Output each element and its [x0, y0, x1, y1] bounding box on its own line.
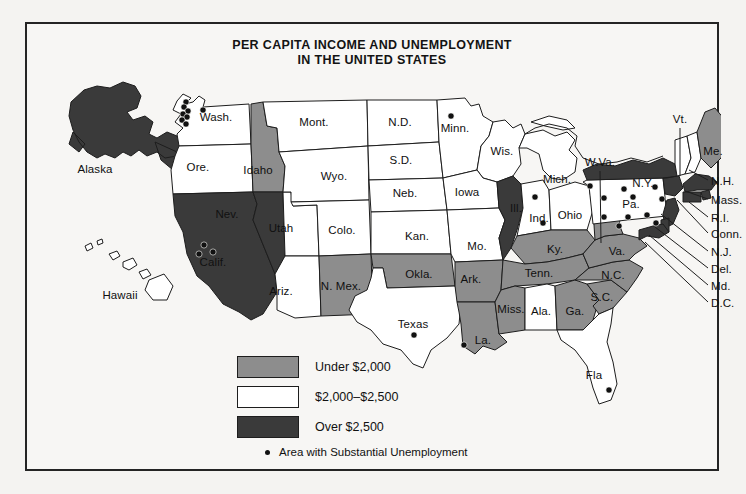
state-label-nj: N.J. — [711, 246, 732, 258]
state-shape-alaska — [69, 82, 191, 174]
state-label-va: Va. — [609, 245, 626, 257]
state-label-mi: Mich. — [543, 173, 571, 185]
state-label-tx: Texas — [398, 318, 429, 330]
legend-swatch-mid — [237, 386, 299, 408]
unemployment-dot — [625, 214, 631, 220]
state-label-la: La. — [475, 334, 491, 346]
state-label-ky: Ky. — [547, 243, 563, 255]
state-label-ks: Kan. — [405, 230, 429, 242]
legend-swatch-under — [237, 356, 299, 378]
state-label-tn: Tenn. — [525, 267, 554, 279]
state-label-de: Del. — [711, 263, 732, 275]
unemployment-dot — [201, 242, 207, 248]
legend-label-mid: $2,000–$2,500 — [315, 390, 398, 404]
inset-label-hawaii: Hawaii — [102, 289, 137, 301]
state-label-ct: Conn. — [711, 228, 742, 240]
unemployment-dot — [532, 194, 538, 200]
leader-line-de — [655, 227, 708, 268]
state-label-ny: N.Y. — [632, 177, 653, 189]
state-label-nv: Nev. — [215, 208, 238, 220]
state-label-vt: Vt. — [673, 113, 687, 125]
state-label-id: Idaho — [243, 164, 272, 176]
state-label-ri: R.I. — [711, 212, 729, 224]
unemployment-dot — [601, 195, 607, 201]
state-label-il: Ill. — [510, 202, 522, 214]
state-label-ar: Ark. — [461, 273, 482, 285]
state-label-ut: Utah — [269, 222, 294, 234]
state-label-ia: Iowa — [455, 186, 480, 198]
state-shape-maryland — [639, 224, 669, 240]
state-shape-michigan — [519, 116, 577, 180]
state-label-or: Ore. — [187, 161, 210, 173]
unemployment-dot — [448, 113, 454, 119]
state-label-oh: Ohio — [558, 209, 583, 221]
unemployment-dot — [644, 212, 650, 218]
state-label-nd: N.D. — [388, 116, 411, 128]
state-label-fl: Fla — [586, 369, 602, 381]
state-label-ca: Calif. — [200, 256, 227, 268]
state-label-mn: Minn. — [441, 122, 470, 134]
state-label-me: Me. — [703, 145, 722, 157]
legend-row-over: Over $2,500 — [237, 414, 468, 440]
state-label-ok: Okla. — [405, 268, 432, 280]
unemployment-dot — [653, 220, 659, 226]
unemployment-dot — [411, 332, 417, 338]
inset-label-alaska: Alaska — [77, 163, 112, 175]
leader-line-ri — [689, 202, 708, 217]
state-label-nm: N. Mex. — [321, 280, 361, 292]
state-label-dc: D.C. — [711, 297, 734, 309]
state-label-mo: Mo. — [467, 240, 486, 252]
state-label-sc: S.C. — [591, 291, 614, 303]
state-shape-ohio — [549, 182, 593, 230]
legend-note: Area with Substantial Unemployment — [265, 446, 468, 458]
legend-label-over: Over $2,500 — [315, 420, 384, 434]
legend-row-mid: $2,000–$2,500 — [237, 384, 468, 410]
state-label-pa: Pa. — [622, 198, 640, 210]
state-label-mt: Mont. — [299, 116, 328, 128]
unemployment-dot — [461, 342, 467, 348]
state-label-ne: Neb. — [393, 187, 418, 199]
legend-note-label: Area with Substantial Unemployment — [279, 446, 468, 458]
legend-label-under: Under $2,000 — [315, 360, 391, 374]
state-label-md: Md. — [711, 280, 730, 292]
legend-row-under: Under $2,000 — [237, 354, 468, 380]
unemployment-dot — [587, 183, 593, 189]
scanned-map-page: the one of theof the sidelinesthat itto … — [0, 0, 746, 494]
unemployment-dot — [606, 387, 612, 393]
unemployment-dot — [210, 249, 216, 255]
state-label-ma: Mass. — [711, 194, 742, 206]
state-label-wi: Wis. — [491, 145, 514, 157]
state-label-nc: N.C. — [601, 269, 624, 281]
state-label-wv: W.Va. — [585, 156, 615, 168]
state-label-wy: Wyo. — [321, 170, 348, 182]
state-label-ga: Ga. — [566, 305, 585, 317]
unemployment-dot — [616, 223, 622, 229]
state-label-al: Ala. — [531, 305, 551, 317]
unemployment-dot — [183, 121, 189, 127]
state-label-sd: S.D. — [390, 154, 413, 166]
state-label-nh: N.H. — [711, 175, 734, 187]
unemployment-dot — [621, 186, 627, 192]
leader-line-md — [649, 235, 708, 285]
map-frame: PER CAPITA INCOME AND UNEMPLOYMENT IN TH… — [25, 22, 719, 471]
state-label-in: Ind. — [529, 212, 549, 224]
state-label-wa: Wash. — [200, 111, 233, 123]
unemployment-dot — [659, 196, 665, 202]
state-shape-missouri — [447, 208, 505, 262]
unemployment-dot — [601, 214, 607, 220]
state-label-ms: Miss. — [497, 303, 524, 315]
state-label-co: Colo. — [328, 224, 355, 236]
state-shape-oregon — [171, 144, 253, 194]
state-label-az: Ariz. — [269, 285, 293, 297]
map-legend: Under $2,000 $2,000–$2,500 Over $2,500 A… — [237, 354, 468, 458]
leader-line-dc — [645, 242, 708, 302]
legend-swatch-over — [237, 416, 299, 438]
unemployment-dot-icon — [265, 450, 270, 455]
